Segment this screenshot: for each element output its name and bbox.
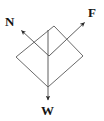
applied-force-label: F bbox=[88, 6, 96, 19]
weight-force-label: W bbox=[41, 104, 54, 117]
normal-arrow bbox=[22, 31, 50, 57]
vector-applied bbox=[49, 23, 85, 57]
applied-force-arrow bbox=[49, 23, 85, 57]
vector-normal bbox=[22, 31, 50, 57]
free-body-diagram: N F W bbox=[0, 0, 104, 121]
normal-force-label: N bbox=[5, 15, 14, 28]
